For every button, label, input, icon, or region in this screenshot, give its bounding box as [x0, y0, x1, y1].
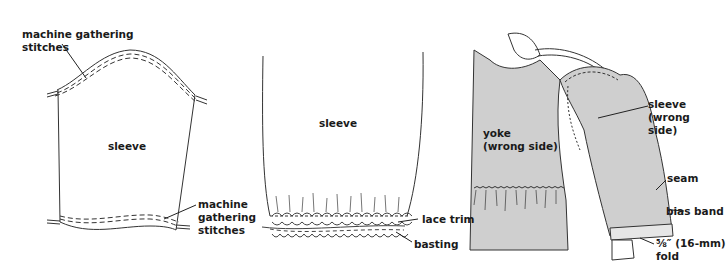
- lace-scallops: [262, 193, 412, 237]
- label-machine-gathering-stitches-bottom: machine gathering stitches: [198, 198, 256, 237]
- label-sleeve-panel-1: sleeve: [108, 140, 146, 153]
- label-basting: basting: [414, 238, 458, 251]
- label-sleeve-panel-2: sleeve: [319, 117, 357, 130]
- label-fold: ⅝″ (16-mm) fold: [656, 237, 726, 263]
- label-machine-gathering-stitches-top: machine gathering stitches: [22, 28, 134, 54]
- label-sleeve-wrong-side: sleeve (wrong side): [648, 98, 690, 137]
- label-yoke-wrong-side: yoke (wrong side): [483, 127, 558, 153]
- label-bias-band: bias band: [666, 205, 724, 218]
- label-seam: seam: [667, 172, 698, 185]
- panel-2-sleeve-drawing: [262, 52, 423, 242]
- panel-1-sleeve-drawing: [47, 44, 207, 230]
- label-lace-trim: lace trim: [422, 213, 474, 226]
